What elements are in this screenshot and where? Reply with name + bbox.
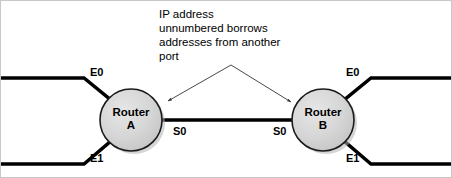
interface-label-s0-right: S0	[273, 126, 286, 137]
interface-label-e0-left: E0	[90, 67, 103, 78]
link-ethernet-e1-right	[344, 141, 452, 164]
interface-label-e1-right: E1	[346, 153, 359, 164]
router-a-label: Router A	[101, 106, 161, 132]
router-b-name-line1: Router	[304, 106, 341, 118]
router-b-label: Router B	[293, 106, 353, 132]
router-b-name-line2: B	[319, 119, 327, 131]
arrow-to-router-b-serial	[231, 65, 291, 102]
arrow-to-router-a-serial	[168, 65, 231, 101]
link-ethernet-e0-left	[1, 78, 111, 100]
router-a-name-line1: Router	[112, 106, 149, 118]
annotation-label: IP address unnumbered borrows addresses …	[159, 7, 280, 63]
interface-label-e0-right: E0	[346, 67, 359, 78]
router-a-name-line2: A	[127, 119, 135, 131]
interface-label-s0-left: S0	[173, 126, 186, 137]
interface-label-e1-left: E1	[90, 153, 103, 164]
network-diagram: IP address unnumbered borrows addresses …	[0, 0, 452, 178]
link-ethernet-e0-right	[344, 78, 452, 100]
